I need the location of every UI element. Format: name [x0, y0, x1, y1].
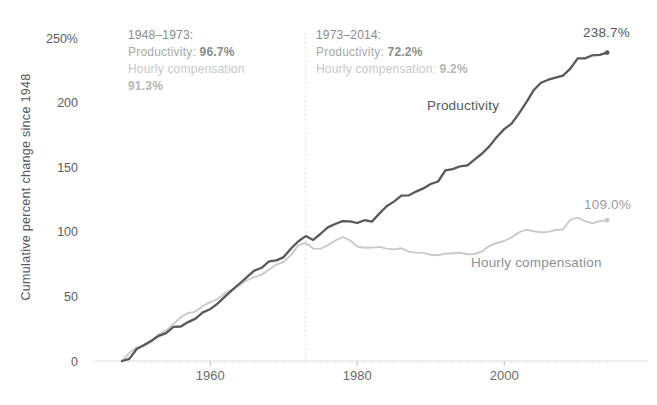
y-tick-label: 0 — [71, 355, 78, 369]
productivity-end-value-label: 238.7% — [583, 25, 630, 40]
annotation-productivity-label: Productivity: — [316, 45, 384, 59]
annotation-compensation-label: Hourly compensation: — [316, 62, 436, 76]
x-tick-label: 2000 — [490, 368, 519, 383]
annotation-productivity-label: Productivity: — [128, 45, 196, 59]
annotation-productivity-value: 72.2% — [388, 45, 423, 59]
productivity-line-end-dot — [605, 50, 610, 55]
productivity-series-label: Productivity — [427, 98, 499, 113]
productivity-line — [122, 53, 607, 361]
annotation-compensation-label: Hourly compensation — [128, 62, 245, 76]
compensation-line-end-dot — [605, 218, 610, 223]
annotation-1948-1973: 1948–1973: Productivity: 96.7% Hourly co… — [128, 27, 260, 95]
y-tick-label: 150 — [57, 161, 78, 175]
productivity-pay-gap-chart: 196019802000250%200150100500 Cumulative … — [0, 0, 657, 405]
compensation-line — [122, 218, 607, 361]
y-tick-label: 100 — [57, 225, 78, 239]
annotation-period: 1948–1973: — [128, 28, 193, 42]
y-axis-title: Cumulative percent change since 1948 — [19, 57, 33, 317]
annotation-compensation-value: 91.3% — [128, 79, 163, 93]
annotation-period: 1973–2014: — [316, 28, 381, 42]
annotation-productivity-value: 96.7% — [200, 45, 235, 59]
x-tick-label: 1960 — [196, 368, 225, 383]
y-tick-label: 50 — [64, 290, 78, 304]
y-tick-label: 250% — [46, 32, 78, 46]
compensation-end-value-label: 109.0% — [584, 197, 631, 212]
annotation-compensation-value: 9.2% — [440, 62, 468, 76]
compensation-series-label: Hourly compensation — [471, 255, 602, 270]
x-tick-label: 1980 — [343, 368, 372, 383]
y-tick-label: 200 — [57, 96, 78, 110]
annotation-1973-2014: 1973–2014: Productivity: 72.2% Hourly co… — [316, 27, 546, 78]
